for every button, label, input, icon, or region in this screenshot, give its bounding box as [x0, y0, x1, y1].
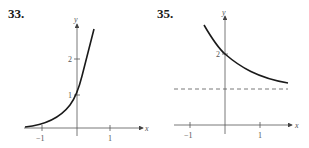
x-tick-1: 1 — [258, 131, 262, 140]
graph-33: −1 1 1 2 x y — [24, 15, 149, 143]
y-axis-label: y — [73, 15, 78, 24]
y-tick-1: 1 — [68, 91, 72, 100]
x-axis-label: x — [144, 124, 149, 133]
x-tick-neg1: −1 — [36, 134, 45, 143]
x-axis-label: x — [294, 121, 299, 130]
graphs: −1 1 1 2 x y −1 1 2 x y — [0, 0, 309, 148]
growth-curve — [25, 29, 94, 127]
y-tick-2: 2 — [216, 50, 220, 59]
y-tick-2: 2 — [68, 55, 72, 64]
graph-35: −1 1 2 x y — [174, 8, 299, 140]
x-tick-neg1: −1 — [184, 131, 193, 140]
x-tick-1: 1 — [108, 134, 112, 143]
y-axis-label: y — [221, 8, 226, 17]
